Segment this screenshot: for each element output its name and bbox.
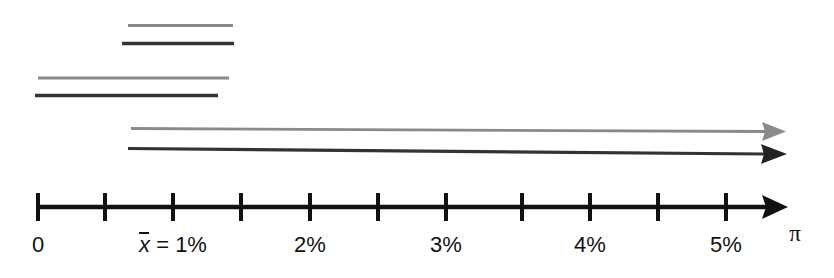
axis-tick-label-mean: x = 1% bbox=[139, 234, 207, 256]
interval-arrows bbox=[128, 122, 787, 164]
axis-tick-label-0: 0 bbox=[32, 234, 44, 256]
axis-name-pi: π bbox=[789, 222, 801, 245]
axis-tick-label-3: 3% bbox=[430, 234, 462, 256]
axis-tick-label-5: 5% bbox=[710, 234, 742, 256]
interval-plot-canvas bbox=[0, 0, 834, 278]
interval-segments bbox=[35, 26, 234, 96]
interval-3-upper-line bbox=[131, 129, 766, 132]
interval-plot-figure: 0 x = 1% 2% 3% 4% 5% π bbox=[0, 0, 834, 278]
axis-tick-label-2: 2% bbox=[294, 234, 326, 256]
x-bar-symbol: x bbox=[139, 234, 150, 256]
axis-line-group bbox=[38, 195, 788, 219]
interval-3-lower-arrowhead bbox=[761, 144, 787, 164]
mean-label-rest: = 1% bbox=[150, 232, 207, 257]
axis-tick-label-4: 4% bbox=[574, 234, 606, 256]
interval-3-upper-arrowhead bbox=[762, 122, 786, 141]
interval-3-lower-line bbox=[128, 149, 766, 155]
